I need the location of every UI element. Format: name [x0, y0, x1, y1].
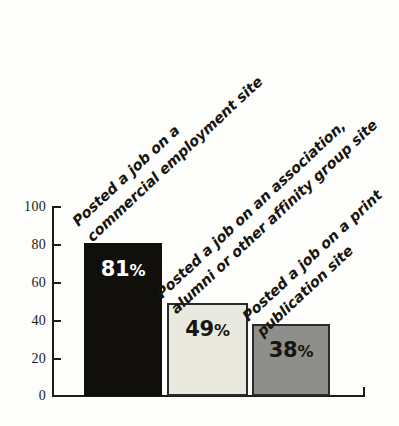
y-tick-label-20: 20	[31, 351, 46, 367]
y-tick-label-40: 40	[31, 313, 46, 329]
y-tick-label-100: 100	[24, 199, 46, 215]
bar-value-label-3: 38%	[269, 338, 314, 362]
category-label-line: Posted a job on a	[68, 57, 253, 232]
bar-value-label-2: 49%	[185, 317, 230, 341]
bar-chart: 100 80 60 40 20 0 81% 49% 38% Posted a j…	[0, 0, 399, 426]
y-tick-label-80: 80	[31, 237, 46, 253]
bar-commercial-employment-site: 81%	[84, 243, 162, 396]
y-tick-label-0: 0	[39, 388, 46, 404]
bar-value-label-1: 81%	[101, 257, 146, 281]
y-tick-label-60: 60	[31, 275, 46, 291]
